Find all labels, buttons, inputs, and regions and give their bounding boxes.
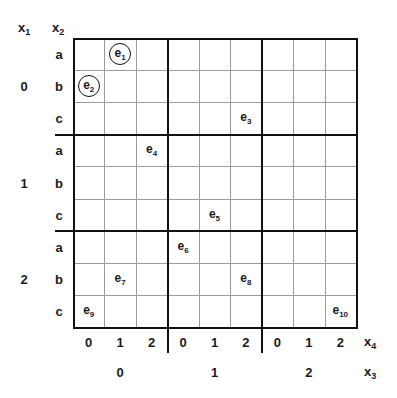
x4-tick-label: 1 [211,335,218,350]
event-e4: e4 [146,143,157,158]
x4-tick-label: 1 [117,335,124,350]
block-separator-vertical [167,38,169,353]
grid-line-horizontal [73,263,356,264]
grid-line-vertical [230,38,231,327]
x4-tick-label: 2 [337,335,344,350]
x1-tick-label: 0 [20,79,27,94]
x2-tick-label: c [55,303,62,318]
x4-tick-label: 1 [305,335,312,350]
event-e3: e3 [240,111,251,126]
grid-line-horizontal [73,295,356,296]
grid-line-vertical [325,38,326,327]
grid-line-horizontal [73,166,356,167]
x1-axis-label: x1 [18,20,30,37]
x2-tick-label: a [55,239,62,254]
block-separator-horizontal [55,134,356,136]
x4-tick-label: 2 [148,335,155,350]
grid-line-vertical [293,38,294,327]
x2-tick-label: c [55,207,62,222]
x2-tick-label: c [55,111,62,126]
grid-line-horizontal [73,199,356,200]
x4-tick-label: 0 [85,335,92,350]
x4-axis-label: x4 [364,334,376,351]
x2-tick-label: a [55,47,62,62]
x3-tick-label: 1 [211,365,218,380]
x1-tick-label: 1 [20,175,27,190]
grid-line-horizontal [73,102,356,103]
grid-border-bottom [73,327,358,329]
grid-border-top [73,38,356,40]
grid-border-left [73,38,75,327]
grid-line-vertical [136,38,137,327]
x3-tick-label: 0 [117,365,124,380]
grid-line-horizontal [73,70,356,71]
event-e9: e9 [83,303,94,318]
x1-tick-label: 2 [20,271,27,286]
circle-marker-icon [78,75,100,97]
x4-tick-label: 2 [242,335,249,350]
event-e5: e5 [209,207,220,222]
grid-line-vertical [199,38,200,327]
block-separator-vertical [261,38,263,353]
event-e7: e7 [115,271,126,286]
x2-axis-label: x2 [52,20,64,37]
event-e8: e8 [240,271,251,286]
grid-line-vertical [104,38,105,327]
event-e6: e6 [177,239,188,254]
x4-tick-label: 0 [179,335,186,350]
x3-axis-label: x3 [364,364,376,381]
event-e10: e10 [332,303,348,318]
x4-tick-label: 0 [274,335,281,350]
block-separator-horizontal [55,230,356,232]
x3-tick-label: 2 [305,365,312,380]
x2-tick-label: b [55,79,63,94]
x2-tick-label: b [55,175,63,190]
grid-border-right [356,38,358,327]
x2-tick-label: b [55,271,63,286]
circle-marker-icon [109,43,131,65]
x2-tick-label: a [55,143,62,158]
